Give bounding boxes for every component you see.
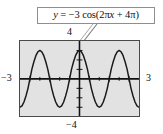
cosine-plot [20,41,139,117]
equation-label: y = −3 cos(2πx + 4π) [53,10,139,21]
equation-callout-box: y = −3 cos(2πx + 4π) [37,7,155,24]
y-max-label: 4 [67,27,72,37]
x-max-label: 3 [146,73,151,83]
x-min-label: −3 [1,73,12,83]
y-min-label: −4 [66,120,77,130]
calculator-screen [19,40,140,117]
